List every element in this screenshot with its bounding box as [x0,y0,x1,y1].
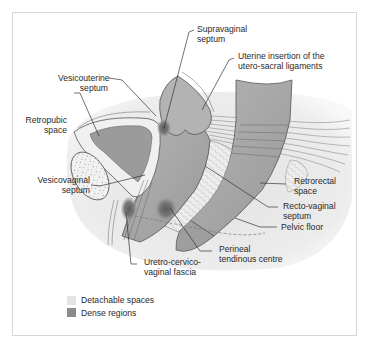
label-uretro-cervico-vaginal-fascia: Uretro-cervico- vaginal fascia [144,257,201,277]
legend-item-detachable: Detachable spaces [67,294,154,307]
dense-region-urethral [121,197,137,221]
legend-label-detachable: Detachable spaces [81,295,154,305]
label-vesicovaginal-septum: Vesicovaginal septum [36,175,90,195]
label-supravaginal-septum: Supravaginal septum [197,24,247,44]
label-recto-vaginal-septum: Recto-vaginal septum [283,201,336,221]
label-perineal-tendinous-centre: Perineal tendinous centre [219,244,283,264]
label-retrorectal-space: Retrorectal space [294,176,336,196]
legend: Detachable spaces Dense regions [67,294,154,319]
label-uterine-insertion: Uterine insertion of the utero-sacral li… [238,51,324,71]
label-pelvic-floor: Pelvic floor [281,222,323,232]
swatch-detachable-spaces [67,296,76,305]
label-vesicouterine-septum: Vesicouterine septum [58,73,108,93]
legend-label-dense: Dense regions [81,308,136,318]
legend-item-dense: Dense regions [67,307,154,320]
swatch-dense-regions [67,308,76,317]
label-retropubic-space: Retropubic space [22,115,67,135]
dense-region-perineal [155,197,177,221]
